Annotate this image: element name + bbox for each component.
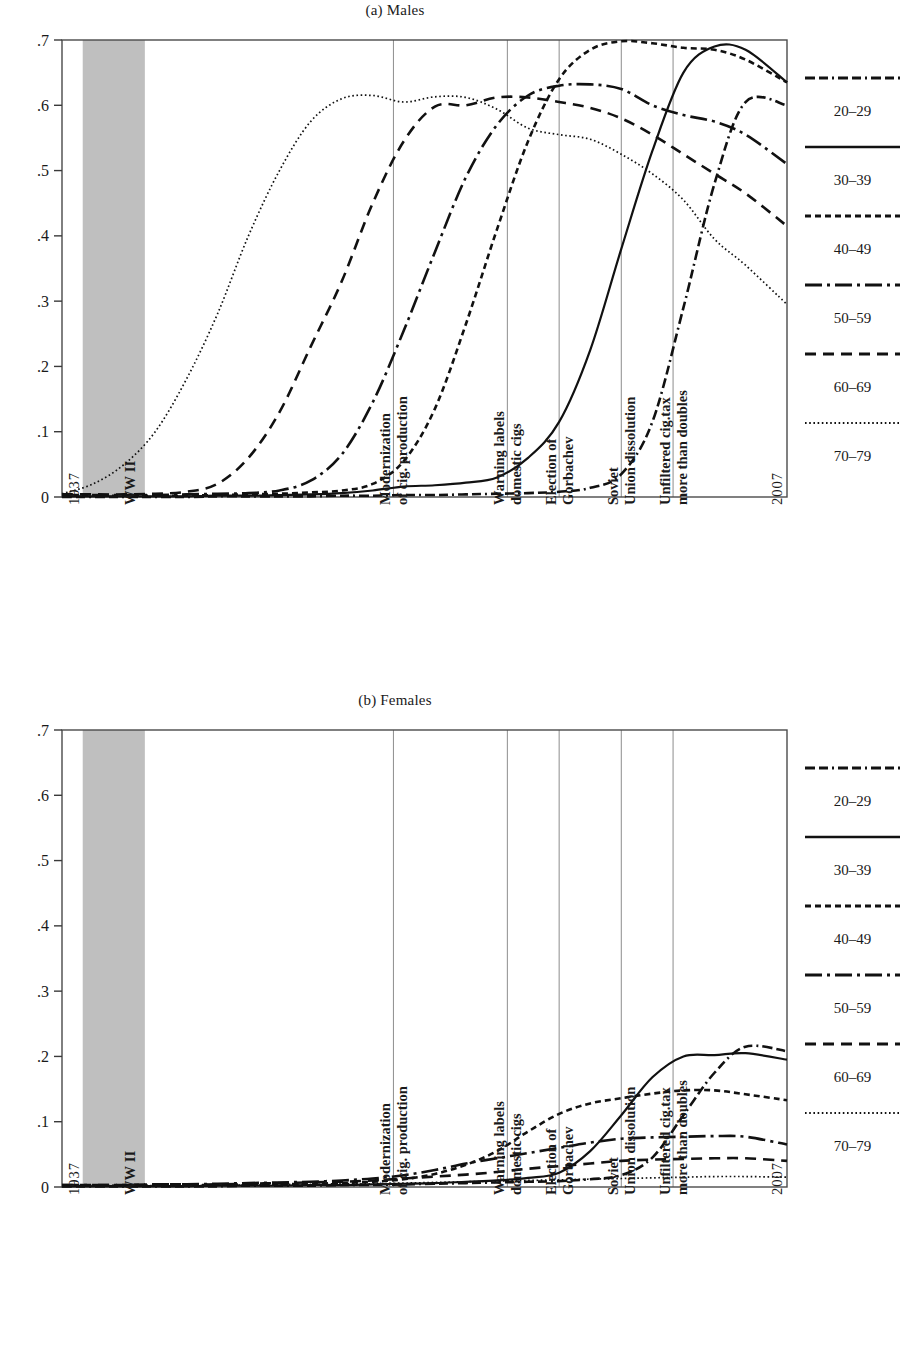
y-tick-label-5: .5 [37,162,49,179]
y-tick-label-5: .5 [37,852,49,869]
chart-panel-females: (b) Females 0.1.2.3.4.5.6.720–2930–3940–… [0,690,913,1364]
x-axis-end-label: 2007 [769,1162,786,1195]
legend-label-2: 40–49 [834,241,872,257]
event-label-0: Modernizationof cig. production [377,396,411,505]
y-tick-label-3: .3 [37,293,49,310]
event-label-2: Election ofGorbachev [543,437,577,505]
females-chart-canvas: 0.1.2.3.4.5.6.720–2930–3940–4950–5960–69… [0,690,913,1210]
legend-label-3: 50–59 [834,310,872,326]
x-axis-start-label: 1937 [66,1162,83,1195]
event-label-1: Warning labelsdomestic cigs [491,411,525,505]
legend-label-2: 40–49 [834,931,872,947]
y-tick-label-4: .4 [37,917,49,934]
y-tick-label-2: .2 [37,1048,49,1065]
legend-label-4: 60–69 [834,379,872,395]
legend-label-1: 30–39 [834,862,872,878]
y-tick-label-6: .6 [37,787,49,804]
y-tick-label-7: .7 [37,32,49,49]
y-tick-label-3: .3 [37,983,49,1000]
wwii-shaded-band [83,40,145,497]
chart-panel-males: (a) Males 0.1.2.3.4.5.6.720–2930–3940–49… [0,0,913,680]
x-axis-start-label: 1937 [66,472,83,505]
legend-label-4: 60–69 [834,1069,872,1085]
event-label-1: Warning labelsdomestic cigs [491,1101,525,1195]
event-label-3: SovietUnion dissolution [605,1087,639,1195]
y-tick-label-0: 0 [41,489,49,506]
wwii-axis-label: WW II [122,461,139,505]
event-label-0: Modernizationof cig. production [377,1086,411,1195]
y-tick-label-6: .6 [37,97,49,114]
legend-label-1: 30–39 [834,172,872,188]
legend-label-5: 70–79 [834,1138,872,1154]
event-label-2: Election ofGorbachev [543,1127,577,1195]
y-tick-label-4: .4 [37,227,49,244]
y-tick-label-1: .1 [37,1113,49,1130]
y-tick-label-7: .7 [37,722,49,739]
y-tick-label-0: 0 [41,1179,49,1196]
event-label-4: Unfiltered cig.taxmore than doubles [657,1080,691,1195]
event-label-3: SovietUnion dissolution [605,397,639,505]
wwii-axis-label: WW II [122,1151,139,1195]
x-axis-end-label: 2007 [769,472,786,505]
y-tick-label-1: .1 [37,423,49,440]
wwii-shaded-band [83,730,145,1187]
legend-label-0: 20–29 [834,793,872,809]
legend-label-5: 70–79 [834,448,872,464]
event-label-4: Unfiltered cig.taxmore than doubles [657,390,691,505]
y-tick-label-2: .2 [37,358,49,375]
legend-label-0: 20–29 [834,103,872,119]
males-chart-canvas: 0.1.2.3.4.5.6.720–2930–3940–4950–5960–69… [0,0,913,520]
legend-label-3: 50–59 [834,1000,872,1016]
